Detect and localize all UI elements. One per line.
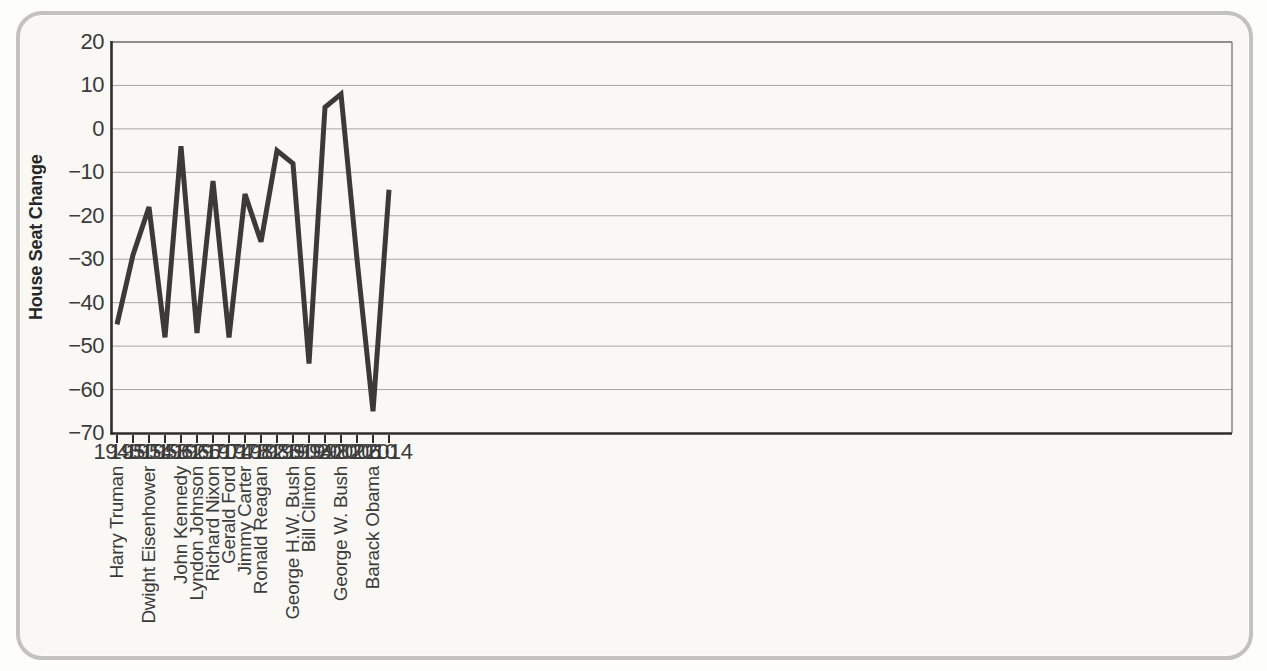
page-background: House Seat Change 20100−10−20−30−40−50−6… (0, 0, 1267, 671)
data-line (117, 94, 389, 411)
line-chart (0, 0, 1267, 671)
y-axis-title: House Seat Change (26, 42, 54, 433)
